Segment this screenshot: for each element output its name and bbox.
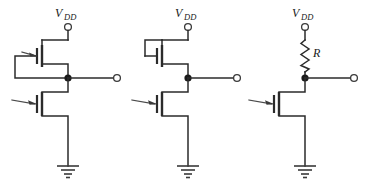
circuit-1-pmos-drain-wire	[42, 64, 68, 78]
circuit-3-input-arrow-head	[265, 100, 274, 105]
circuit-1-pmos-gate-arrow-head	[29, 52, 37, 56]
circuit-3-resistor-zigzag	[301, 40, 309, 72]
circuit-1-nmos-drain-wire	[42, 78, 68, 92]
circuit-2-vdd-terminal[interactable]	[185, 24, 192, 31]
circuit-2-vdd-subscript: DD	[183, 12, 197, 22]
circuit-3-resistor-label: R	[312, 46, 321, 60]
circuit-1-vdd-terminal[interactable]	[65, 24, 72, 31]
circuit-figure: V DD	[0, 0, 370, 186]
circuit-2-load-gate-tie-wire	[145, 40, 162, 56]
circuit-1-nmos-source-wire	[42, 116, 68, 166]
circuit-3-group: V DD R	[249, 6, 357, 178]
circuit-1-group: V DD	[12, 6, 120, 178]
circuit-2-output-terminal[interactable]	[234, 75, 241, 82]
circuit-2-nmos-source-wire	[162, 116, 188, 166]
circuit-3-nmos-source-wire	[279, 116, 305, 166]
circuit-3-vdd-terminal[interactable]	[302, 24, 309, 31]
circuit-1-vdd-label: V	[55, 6, 64, 20]
circuit-3-output-terminal[interactable]	[351, 75, 358, 82]
circuit-3-vdd-subscript: DD	[300, 12, 314, 22]
circuit-3-vdd-label: V	[292, 6, 301, 20]
circuit-2-nmos-drain-wire	[162, 78, 188, 92]
circuit-3-nmos-drain-wire	[279, 78, 305, 92]
circuit-1-vdd-subscript: DD	[63, 12, 77, 22]
circuit-2-vdd-label: V	[175, 6, 184, 20]
circuit-schematic-canvas: V DD	[0, 0, 370, 186]
circuit-1-input-arrow-head	[28, 100, 37, 105]
circuit-2-input-arrow-head	[148, 100, 157, 105]
circuit-2-load-source-wire	[162, 64, 188, 78]
circuit-2-group: V DD	[132, 6, 240, 178]
circuit-1-output-terminal[interactable]	[114, 75, 121, 82]
